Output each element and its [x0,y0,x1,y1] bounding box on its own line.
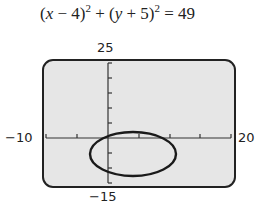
graph-screen [0,0,271,210]
calculator-screen-frame [43,60,235,187]
